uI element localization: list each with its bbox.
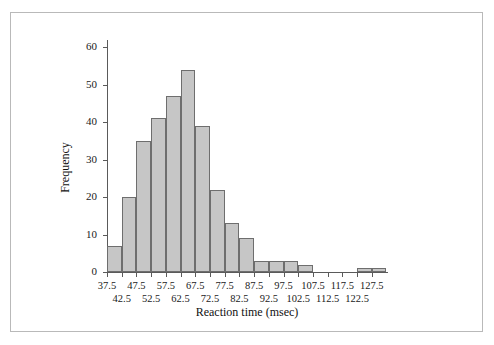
histogram-bar (269, 261, 284, 272)
histogram-bar (225, 223, 240, 272)
x-axis-line (107, 272, 388, 273)
y-tick-label: 10 (71, 229, 97, 240)
histogram-bar (284, 261, 299, 272)
histogram-bar (107, 246, 122, 272)
x-tick-mark (269, 273, 270, 277)
x-tick-mark (195, 273, 196, 277)
histogram-bar (136, 141, 151, 272)
histogram-plot: 0102030405060 37.542.547.552.557.562.567… (0, 0, 494, 345)
histogram-bar (181, 70, 196, 273)
x-tick-mark (166, 273, 167, 277)
histogram-bar (254, 261, 269, 272)
y-axis-title: Frequency (58, 108, 73, 228)
histogram-bar (151, 118, 166, 272)
x-tick-mark (151, 273, 152, 277)
x-tick-mark (210, 273, 211, 277)
x-tick-mark (107, 273, 108, 277)
x-tick-label: 127.5 (352, 280, 392, 291)
x-tick-mark (284, 273, 285, 277)
x-tick-mark (357, 273, 358, 277)
x-tick-mark (239, 273, 240, 277)
histogram-bar (372, 268, 387, 272)
y-tick-mark (103, 160, 107, 161)
histogram-bar (210, 190, 225, 273)
x-tick-mark (181, 273, 182, 277)
y-tick-mark (103, 235, 107, 236)
x-tick-mark (372, 273, 373, 277)
histogram-bar (239, 238, 254, 272)
histogram-bar (298, 265, 313, 273)
y-axis-line (107, 40, 108, 272)
x-tick-mark (136, 273, 137, 277)
y-tick-label: 30 (71, 154, 97, 165)
y-tick-mark (103, 197, 107, 198)
histogram-bar (166, 96, 181, 272)
y-tick-label: 50 (71, 79, 97, 90)
y-tick-label: 60 (71, 41, 97, 52)
x-tick-mark (225, 273, 226, 277)
x-tick-mark (122, 273, 123, 277)
x-axis-title: Reaction time (msec) (117, 305, 377, 320)
y-tick-label: 40 (71, 116, 97, 127)
x-tick-mark (342, 273, 343, 277)
x-tick-mark (328, 273, 329, 277)
histogram-bar (122, 197, 137, 272)
x-tick-mark (298, 273, 299, 277)
y-tick-mark (103, 122, 107, 123)
y-tick-label: 0 (71, 266, 97, 277)
histogram-bar (357, 268, 372, 272)
x-tick-mark (313, 273, 314, 277)
y-tick-mark (103, 85, 107, 86)
x-tick-label: 122.5 (337, 293, 377, 304)
x-tick-mark (254, 273, 255, 277)
histogram-bar (195, 126, 210, 272)
y-tick-label: 20 (71, 191, 97, 202)
y-tick-mark (103, 47, 107, 48)
